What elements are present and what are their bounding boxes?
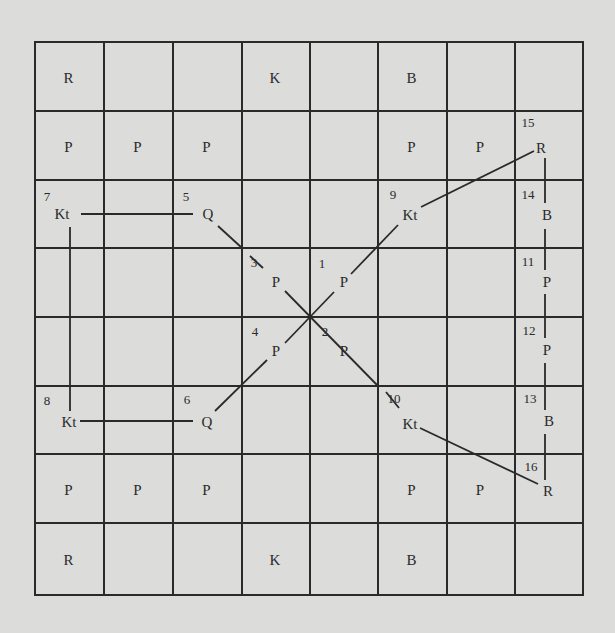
piece-label: P: [476, 139, 484, 154]
move-line: [420, 428, 538, 484]
move-number: 12: [523, 324, 536, 337]
move-number: 13: [524, 392, 537, 405]
piece-label: P: [272, 275, 280, 290]
piece-label: P: [543, 275, 551, 290]
piece-label: P: [407, 139, 415, 154]
piece-label: P: [202, 482, 210, 497]
piece-label: R: [63, 553, 73, 568]
move-number: 3: [251, 256, 258, 269]
piece-label: P: [407, 482, 415, 497]
piece-label: P: [133, 139, 141, 154]
move-number: 5: [183, 190, 190, 203]
piece-label: R: [63, 70, 73, 85]
piece-label: B: [406, 553, 416, 568]
move-number: 10: [388, 392, 401, 405]
move-number: 15: [522, 116, 535, 129]
piece-label: P: [340, 275, 348, 290]
move-number: 14: [522, 188, 535, 201]
piece-label: P: [64, 482, 72, 497]
move-number: 4: [252, 325, 259, 338]
piece-label: Q: [202, 415, 213, 430]
move-number: 16: [525, 460, 538, 473]
move-line: [285, 291, 378, 386]
piece-label: Kt: [403, 208, 418, 223]
piece-label: P: [543, 343, 551, 358]
piece-label: Kt: [55, 207, 70, 222]
piece-label: B: [406, 70, 416, 85]
chessboard-diagram: [0, 0, 615, 633]
piece-label: P: [476, 482, 484, 497]
piece-label: P: [272, 344, 280, 359]
piece-label: P: [340, 344, 348, 359]
move-number: 9: [390, 188, 397, 201]
move-number: 8: [44, 394, 51, 407]
piece-label: Kt: [62, 415, 77, 430]
piece-label: Q: [203, 207, 214, 222]
piece-label: K: [270, 70, 281, 85]
piece-label: K: [270, 553, 281, 568]
piece-label: B: [542, 208, 552, 223]
move-line: [351, 225, 398, 274]
move-number: 2: [322, 325, 329, 338]
move-number: 11: [522, 255, 535, 268]
move-number: 1: [319, 257, 326, 270]
piece-label: P: [202, 139, 210, 154]
piece-label: P: [133, 482, 141, 497]
piece-label: P: [64, 139, 72, 154]
piece-label: Kt: [403, 417, 418, 432]
piece-label: B: [544, 414, 554, 429]
move-number: 6: [184, 393, 191, 406]
move-number: 7: [44, 190, 51, 203]
move-line: [218, 226, 242, 248]
piece-label: R: [543, 484, 553, 499]
piece-label: R: [536, 141, 546, 156]
